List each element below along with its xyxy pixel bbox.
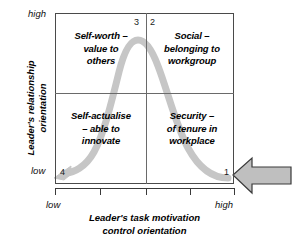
quadrant-number-1: 1 <box>224 167 229 177</box>
y-axis-high-label: high <box>28 8 46 19</box>
quadrant-label-line-2: belonging to <box>164 43 220 54</box>
quadrant-number-4: 4 <box>60 167 65 177</box>
diagram-canvas: Self-worth – value to others Social – be… <box>0 0 293 246</box>
x-axis-title-line-2: control orientation <box>103 225 187 236</box>
matrix-vertical-divider <box>146 13 147 184</box>
quadrant-label-line-3: others <box>87 55 115 66</box>
quadrant-label-line-2: value to <box>83 43 118 54</box>
quadrant-label-line-1: Self-actualise <box>71 110 131 121</box>
x-axis-line <box>55 188 234 189</box>
x-axis-high-label: high <box>215 199 233 210</box>
matrix-horizontal-divider <box>55 93 234 94</box>
x-axis-tick <box>146 188 147 195</box>
quadrant-number-3: 3 <box>134 17 139 27</box>
quadrant-number-2: 2 <box>150 17 155 27</box>
quadrant-label-self-worth: Self-worth – value to others <box>58 30 144 68</box>
quadrant-label-line-1: Social – <box>174 30 209 41</box>
x-axis-tick <box>55 188 56 195</box>
y-axis-title-line-1: Leader's relationship <box>25 60 36 155</box>
quadrant-label-security: Security – of tenure in workplace <box>150 110 234 148</box>
quadrant-label-line-3: workgroup <box>168 55 216 66</box>
y-axis-title-line-2: orientation <box>37 83 48 132</box>
y-axis-title: Leader's relationship orientation <box>25 33 49 183</box>
quadrant-label-line-1: Self-worth – <box>74 30 127 41</box>
x-axis-tick <box>234 188 235 195</box>
quadrant-label-line-3: innovate <box>82 135 120 146</box>
x-axis-tick <box>190 188 191 195</box>
x-axis-title: Leader's task motivation control orienta… <box>55 212 234 237</box>
quadrant-label-social: Social – belonging to workgroup <box>150 30 234 68</box>
quadrant-label-self-actualise: Self-actualise – able to innovate <box>58 110 144 148</box>
quadrant-label-line-2: – able to <box>82 123 120 134</box>
quadrant-label-line-3: workplace <box>169 135 215 146</box>
x-axis-low-label: low <box>46 199 60 210</box>
quadrant-label-line-1: Security – <box>170 110 214 121</box>
x-axis-tick <box>100 188 101 195</box>
x-axis-title-line-1: Leader's task motivation <box>89 212 200 223</box>
quadrant-label-line-2: of tenure in <box>167 123 218 134</box>
entry-block-arrow <box>233 158 291 193</box>
